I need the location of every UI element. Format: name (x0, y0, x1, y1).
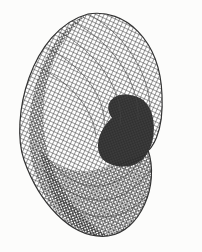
wireframe-surface-figure (0, 0, 202, 252)
mesh-body (0, 0, 202, 252)
scanned-page (0, 0, 202, 252)
